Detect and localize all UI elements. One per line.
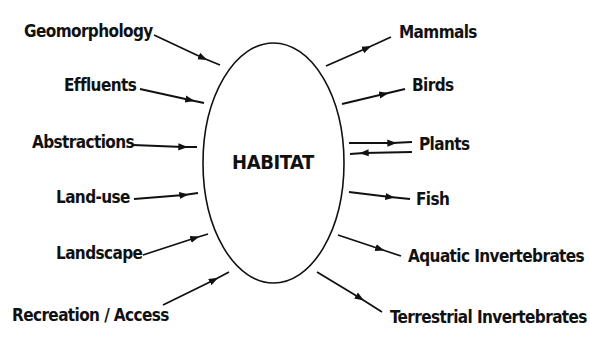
label-landscape: Landscape	[56, 245, 142, 262]
label-geomorphology: Geomorphology	[24, 23, 153, 40]
label-fish: Fish	[416, 191, 449, 208]
arrow-geomorphology	[154, 35, 220, 65]
label-plants: Plants	[419, 136, 469, 153]
arrow-land-use	[134, 193, 198, 199]
arrow-landscape	[143, 234, 208, 255]
habitat-diagram: HABITAT Geomorphology Effluents Abstract…	[0, 0, 590, 349]
arrow-recreation-access	[163, 272, 229, 305]
arrow-terrestrial-invertebrates	[317, 272, 382, 312]
arrow-birds	[342, 89, 405, 104]
arrow-abstractions	[133, 145, 197, 147]
arrow-plants-out	[349, 142, 412, 143]
arrow-aquatic-invertebrates	[338, 235, 401, 256]
label-recreation-access: Recreation / Access	[12, 307, 169, 324]
label-abstractions: Abstractions	[32, 134, 134, 151]
arrow-plants-in	[350, 152, 412, 154]
arrow-mammals	[326, 37, 391, 66]
label-terrestrial-invertebrates: Terrestrial Invertebrates	[390, 309, 587, 326]
arrow-effluents	[140, 89, 204, 103]
diagram-graphics	[0, 0, 590, 349]
label-birds: Birds	[412, 77, 454, 94]
center-label-habitat: HABITAT	[232, 152, 314, 172]
label-aquatic-invertebrates: Aquatic Invertebrates	[408, 248, 584, 265]
label-mammals: Mammals	[399, 24, 477, 41]
arrow-fish	[349, 192, 410, 199]
label-effluents: Effluents	[64, 77, 136, 94]
label-land-use: Land-use	[56, 189, 130, 206]
